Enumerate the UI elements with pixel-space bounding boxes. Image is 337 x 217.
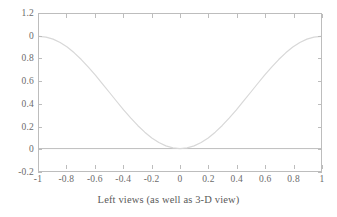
x-tick-mark-top: [237, 14, 238, 18]
y-tick-mark: [38, 149, 42, 150]
y-tick-label: -0.2: [18, 167, 34, 177]
y-tick-mark: [38, 127, 42, 128]
y-tick-mark-right: [318, 36, 322, 37]
x-tick-label: -0.2: [144, 174, 160, 184]
y-tick-mark: [38, 58, 42, 59]
plot-area: [38, 13, 322, 172]
y-tick-mark-right: [318, 127, 322, 128]
x-tick-mark-top: [123, 14, 124, 18]
x-tick-mark: [180, 165, 181, 169]
x-tick-mark: [208, 165, 209, 169]
y-tick-mark-right: [318, 58, 322, 59]
y-tick-label: 0.2: [22, 122, 34, 132]
x-tick-mark: [95, 165, 96, 169]
y-tick-mark: [38, 172, 42, 173]
x-tick-mark-top: [208, 14, 209, 18]
x-tick-mark: [123, 165, 124, 169]
x-tick-mark: [66, 165, 67, 169]
data-curve: [39, 36, 321, 148]
x-tick-mark: [237, 165, 238, 169]
x-tick-mark: [294, 165, 295, 169]
x-tick-label: 0: [178, 174, 183, 184]
curve-svg: [39, 14, 321, 171]
x-axis-label: Left views (as well as 3-D view): [0, 193, 337, 206]
y-tick-mark-right: [318, 172, 322, 173]
y-tick-mark: [38, 36, 42, 37]
y-tick-mark: [38, 81, 42, 82]
x-tick-label: 0.4: [231, 174, 243, 184]
y-tick-label: 0: [29, 31, 34, 41]
x-tick-mark-top: [66, 14, 67, 18]
y-tick-mark-right: [318, 81, 322, 82]
x-tick-label: 0.6: [259, 174, 271, 184]
y-tick-mark: [38, 104, 42, 105]
y-tick-mark-right: [318, 149, 322, 150]
x-tick-mark: [322, 165, 323, 169]
x-tick-label: 1: [320, 174, 325, 184]
x-tick-mark: [38, 165, 39, 169]
x-tick-label: 0.2: [202, 174, 214, 184]
x-tick-mark: [265, 165, 266, 169]
y-tick-label: 0: [29, 144, 34, 154]
x-tick-mark-top: [95, 14, 96, 18]
x-tick-label: -0.8: [58, 174, 74, 184]
x-tick-mark-top: [38, 14, 39, 18]
x-tick-label: -1: [34, 174, 42, 184]
y-tick-label: 0.6: [22, 76, 34, 86]
x-tick-mark-top: [322, 14, 323, 18]
x-tick-mark-top: [180, 14, 181, 18]
y-tick-mark-right: [318, 104, 322, 105]
x-tick-mark: [152, 165, 153, 169]
x-tick-label: 0.8: [287, 174, 299, 184]
chart-figure: 1.200.80.60.40.20-0.2 -1-0.8-0.6-0.4-0.2…: [0, 0, 337, 217]
y-tick-label: 0.4: [22, 99, 34, 109]
y-tick-label: 1.2: [22, 8, 34, 18]
x-tick-label: -0.6: [87, 174, 103, 184]
x-tick-label: -0.4: [115, 174, 131, 184]
x-tick-mark-top: [294, 14, 295, 18]
y-tick-label: 0.8: [22, 53, 34, 63]
x-tick-mark-top: [152, 14, 153, 18]
x-tick-mark-top: [265, 14, 266, 18]
